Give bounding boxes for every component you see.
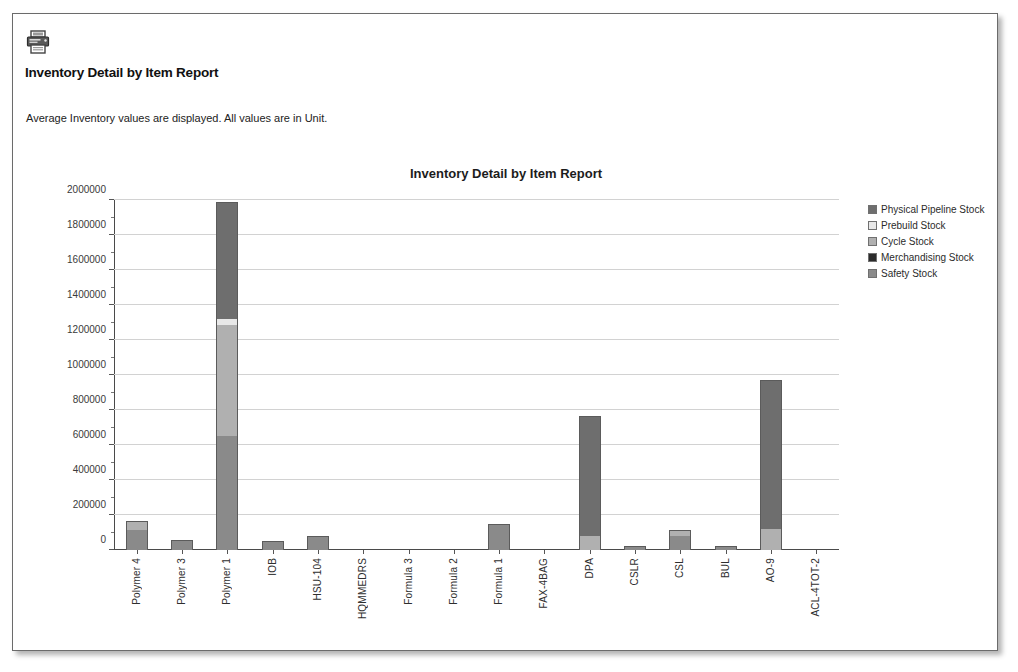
x-axis-label: Polymer 1 — [221, 558, 232, 605]
x-axis-label: AO-9 — [765, 558, 776, 582]
legend-item-label: Merchandising Stock — [881, 252, 974, 263]
bar-segment[interactable] — [216, 325, 238, 436]
gridline — [114, 199, 839, 200]
y-axis-label: 1400000 — [67, 289, 106, 300]
y-axis-label: 1600000 — [67, 254, 106, 265]
bar-segment[interactable] — [126, 530, 148, 550]
y-axis-label: 800000 — [73, 394, 106, 405]
x-axis-label: ACL-4TOT-2 — [810, 558, 821, 617]
x-axis-tick — [635, 550, 636, 554]
y-axis-tick — [109, 374, 114, 375]
x-axis-tick — [227, 550, 228, 554]
y-axis-minor-tick — [111, 532, 114, 533]
y-axis-tick — [109, 479, 114, 480]
legend-item[interactable]: Prebuild Stock — [868, 217, 993, 233]
y-axis-label: 400000 — [73, 464, 106, 475]
y-axis-minor-tick — [111, 287, 114, 288]
y-axis-tick — [109, 444, 114, 445]
legend-item[interactable]: Merchandising Stock — [868, 249, 993, 265]
bar-segment[interactable] — [262, 542, 284, 550]
x-axis-label: CSLR — [629, 558, 640, 585]
x-axis-label: Formula 1 — [493, 558, 504, 605]
x-axis-tick — [363, 550, 364, 554]
bar-group[interactable] — [760, 380, 782, 550]
y-axis-minor-tick — [111, 462, 114, 463]
y-axis-minor-tick — [111, 357, 114, 358]
x-axis-tick — [454, 550, 455, 554]
x-axis-label: Polymer 3 — [176, 558, 187, 605]
y-axis-tick — [109, 514, 114, 515]
y-axis-tick — [109, 409, 114, 410]
legend-item-label: Physical Pipeline Stock — [881, 204, 984, 215]
bar-segment[interactable] — [760, 381, 782, 529]
y-axis-minor-tick — [111, 497, 114, 498]
bar-segment[interactable] — [216, 436, 238, 550]
x-axis-label: HSU-104 — [312, 558, 323, 601]
bar-segment[interactable] — [307, 537, 329, 550]
legend-swatch-icon — [868, 269, 877, 278]
bar-group[interactable] — [669, 530, 691, 550]
legend-item[interactable]: Cycle Stock — [868, 233, 993, 249]
bar-segment[interactable] — [579, 536, 601, 550]
y-axis-tick — [109, 304, 114, 305]
x-axis-label: HQMMEDRS — [357, 558, 368, 619]
legend-item-label: Prebuild Stock — [881, 220, 945, 231]
x-axis-label: DPA — [584, 558, 595, 578]
bar-group[interactable] — [216, 202, 238, 550]
bar-group[interactable] — [488, 524, 510, 550]
x-axis-label: FAX-4BAG — [538, 558, 549, 609]
bar-group[interactable] — [307, 536, 329, 550]
y-axis-label: 200000 — [73, 499, 106, 510]
bar-segment[interactable] — [171, 541, 193, 550]
bar-group[interactable] — [126, 521, 148, 550]
legend-item-label: Cycle Stock — [881, 236, 934, 247]
x-axis-tick — [816, 550, 817, 554]
chart-legend: Physical Pipeline StockPrebuild StockCyc… — [868, 201, 993, 281]
bar-group[interactable] — [171, 540, 193, 550]
legend-item[interactable]: Safety Stock — [868, 265, 993, 281]
bar-segment[interactable] — [126, 522, 148, 530]
y-axis-minor-tick — [111, 252, 114, 253]
x-axis-tick — [182, 550, 183, 554]
y-axis-label: 1800000 — [67, 219, 106, 230]
bar-segment[interactable] — [669, 536, 691, 550]
report-page-sheet: Inventory Detail by Item Report Average … — [12, 13, 998, 651]
y-axis-tick — [109, 549, 114, 550]
legend-item-label: Safety Stock — [881, 268, 937, 279]
x-axis-tick — [726, 550, 727, 554]
y-axis-minor-tick — [111, 322, 114, 323]
bar-segment[interactable] — [488, 525, 510, 550]
y-axis-label: 600000 — [73, 429, 106, 440]
y-axis-tick — [109, 339, 114, 340]
legend-item[interactable]: Physical Pipeline Stock — [868, 201, 993, 217]
y-axis-minor-tick — [111, 392, 114, 393]
y-axis-minor-tick — [111, 217, 114, 218]
bar-group[interactable] — [262, 541, 284, 550]
bar-group[interactable] — [579, 416, 601, 550]
x-axis-tick — [771, 550, 772, 554]
chart-title: Inventory Detail by Item Report — [13, 166, 999, 181]
y-axis-tick — [109, 199, 114, 200]
legend-swatch-icon — [868, 205, 877, 214]
x-axis-tick — [680, 550, 681, 554]
bar-segment[interactable] — [216, 203, 238, 319]
chart-container: Inventory Detail by Item Report 02000004… — [13, 14, 999, 652]
x-axis-label: IOB — [267, 558, 278, 576]
x-axis-tick — [499, 550, 500, 554]
x-axis-tick — [544, 550, 545, 554]
x-axis-tick — [137, 550, 138, 554]
y-axis-label: 1000000 — [67, 359, 106, 370]
x-axis-label: CSL — [674, 558, 685, 578]
y-axis-tick — [109, 269, 114, 270]
y-axis-tick — [109, 234, 114, 235]
x-axis-label: Formula 2 — [448, 558, 459, 605]
plot-area: 0200000400000600000800000100000012000001… — [114, 200, 839, 550]
legend-swatch-icon — [868, 253, 877, 262]
x-axis-tick — [590, 550, 591, 554]
bar-segment[interactable] — [760, 529, 782, 550]
x-axis-tick — [273, 550, 274, 554]
y-axis-minor-tick — [111, 427, 114, 428]
y-axis-label: 2000000 — [67, 184, 106, 195]
bar-segment[interactable] — [579, 417, 601, 536]
legend-swatch-icon — [868, 221, 877, 230]
